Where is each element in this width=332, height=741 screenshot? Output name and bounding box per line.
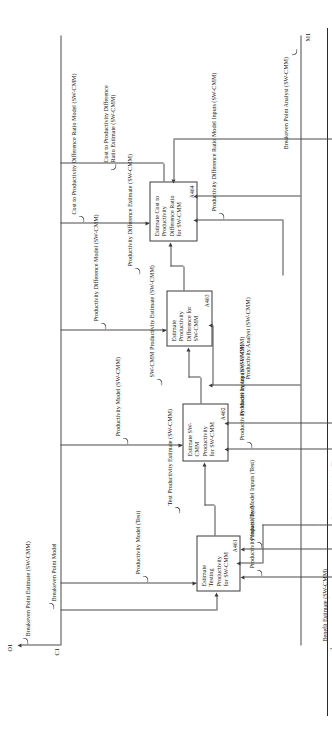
analyst-swcmm-bridge [212,325,213,385]
label-breakeven-point-estimate: Breakeven Point Estimate (SW-CMM) [24,541,31,636]
port-tag-c1: C1 [52,648,59,655]
pmi-swcmm-tie [246,441,252,448]
a461-out-arrowhead [202,462,206,466]
i1-branch-analyst-test-v [318,524,332,525]
label-breakeven-point-model: Breakeven Point Model [50,543,57,601]
a463-out-arrowhead [168,242,172,246]
c1-drop-a461 [60,609,216,610]
a461-out-tie [174,506,180,513]
pd-model-tie [100,322,106,329]
i3-into-a464 [173,139,174,179]
a461-out-riser [204,504,214,505]
c1-label-tie [48,602,54,609]
label-productivity-model-swcmm: Productivity Model (SW-CMM) [114,357,121,437]
label-pd-estimate: Productivity Difference Estimate (SW-CMM… [126,153,133,266]
analyst-test-run [262,524,263,563]
a463-out-tie [134,267,140,274]
scanned-page: Estimate Testing Productivity for SW-CMM… [0,0,332,741]
label-breakeven-point-analyst: Breakeven Point Analyst (SW-CMM) [282,56,289,149]
a462-out-run [200,377,201,403]
analyst-test-riser [262,524,318,525]
pd-model-arrowhead [162,328,166,332]
label-benefit-estimate: Benefit Estimate (SW-CMM) [321,568,328,641]
prod-model-test-arrowhead [192,581,196,585]
activity-box-a462-number: A462 [219,407,225,420]
activity-box-a462-title: Estimate SW-CMM Productivity for SW-CMM [186,417,216,456]
label-cpdr-estimate: Cost to Productivity Difference Ratio Es… [102,78,116,162]
pdrmi-run [282,219,283,275]
activity-box-a464-title: Estimate Cost to Productivity Difference… [153,195,183,236]
a464-out-tie [110,163,116,170]
i2-arrowhead [240,575,244,579]
prod-model-swcmm-arrowhead [178,443,182,447]
idef0-diagram-canvas: Estimate Testing Productivity for SW-CMM… [0,0,332,741]
control-rail-c1 [60,35,61,645]
pdrmi-riser [197,219,282,220]
i3-riser [173,138,332,139]
c1-arrowhead-a461 [214,592,218,596]
a463-out-riser [170,265,183,266]
a461-out-to-a462 [204,465,205,505]
label-productivity-analyst-swcmm: Productivity Analyst (SW-CMM) [244,297,251,379]
analyst-test-into-a461 [240,562,262,563]
cpdr-model-arrowhead [145,221,149,225]
prod-model-inputs-test-tie [256,541,262,548]
pdrmi-arrowhead [193,218,197,222]
analyst-swcmm-a463-arrowhead [208,323,212,327]
label-test-productivity-estimate: Test Productivity Estimate (SW-CMM) [166,408,173,505]
a462-out-tie [156,378,162,385]
activity-box-a461-number: A461 [231,539,237,552]
pi-swcmm-riser [228,422,332,423]
label-cpdr-model: Cost to Productivity Difference Ratio Mo… [70,73,77,214]
prod-model-test-drop [60,582,196,583]
analyst-test-arrowhead [236,561,240,565]
activity-box-a461-title: Estimate Testing Productivity for SW-CMM [200,549,230,586]
port-tag-m1: M1 [303,32,310,41]
label-pdr-model-inputs: Productivity Difference Ratio Model Inpu… [210,72,217,211]
a462-out-to-a463 [188,350,189,377]
m1-arrowhead-a464 [193,194,197,198]
a463-out-run [183,266,184,290]
activity-box-a464[interactable]: Estimate Cost to Productivity Difference… [149,181,197,241]
activity-box-a463-title: Estimate Productivity Difference for SW-… [170,304,200,341]
label-swcmm-productivity-estimate: SW-CMM Productivity Estimate (SW-CMM) [148,265,155,377]
label-productivity-model-test: Productivity Model (Test) [134,510,141,574]
activity-box-a463-number: A463 [203,294,209,307]
pmi-swcmm-riser [228,448,332,449]
prod-model-swcmm-tie [122,437,128,444]
mechanism-rail-m1 [300,35,301,645]
pmi-swcmm-arrowhead [224,447,228,451]
prod-model-test-tie [142,575,148,582]
prod-model-swcmm-drop [60,444,182,445]
diagram-rotation-wrapper: Estimate Testing Productivity for SW-CMM… [0,0,332,741]
activity-box-a462[interactable]: Estimate SW-CMM Productivity for SW-CMM … [182,403,228,461]
pi-swcmm-arrowhead [224,421,228,425]
activity-box-a463[interactable]: Estimate Productivity Difference for SW-… [166,290,212,346]
port-tag-o1: O1 [5,643,12,651]
analyst-swcmm-riser [212,384,300,385]
a462-out-riser [188,376,200,377]
cpdr-model-tie [78,215,84,222]
a463-out-to-a464 [170,245,171,266]
o1-arrowhead [17,643,21,647]
label-pd-model: Productivity Difference Model (SW-CMM) [92,214,99,321]
i4-arrowhead [240,547,244,551]
a464-out-run [163,163,164,181]
label-productivity-model-inputs-test: Productivity Model Inputs (Test) [248,459,255,540]
o1-label-tie [22,637,28,644]
a462-out-arrowhead [186,347,190,351]
i3-arrowhead [171,179,175,183]
cpdr-model-drop [60,222,149,223]
activity-box-a461[interactable]: Estimate Testing Productivity for SW-CMM… [196,535,240,591]
pdrmi-tie [218,212,224,219]
c1-into-a461 [216,595,217,610]
m1-label-tie [291,48,297,55]
prod-inputs-test-tie [256,569,262,576]
a461-out-run [214,505,215,535]
analyst-swcmm-arrowhead [208,383,212,387]
